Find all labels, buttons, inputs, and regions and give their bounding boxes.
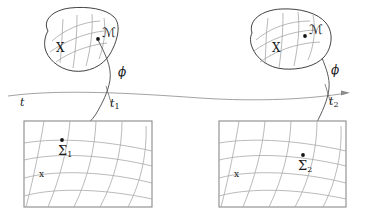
panel-left-group [24, 121, 152, 207]
panel-right-frame [219, 121, 346, 207]
panel-right-point-dot [301, 153, 305, 157]
manifold-left-label: ℳ [102, 26, 116, 39]
time-axis-arrowhead [341, 91, 350, 96]
phi-label-left: ϕ [118, 66, 126, 78]
manifold-right-label: ℳ [309, 23, 323, 36]
time-axis-label: t [20, 97, 24, 108]
panel-left-frame [24, 121, 152, 207]
time-tick-2-sub: 2 [333, 100, 338, 109]
time-tick-label-1: t1 [110, 98, 120, 111]
panel-left-point-dot [60, 138, 64, 142]
panel-left-space-label: x [39, 170, 44, 179]
manifold-right-grid-u2 [254, 30, 315, 51]
panel-right-point-sub: 2 [307, 165, 312, 174]
time-axis-line [8, 92, 347, 100]
panel-right-space-label: x [234, 170, 239, 179]
manifold-left-grid-v2 [73, 15, 77, 68]
panel-right-point-base: Ʃ [298, 158, 307, 173]
manifold-right-grid-v3 [294, 12, 299, 66]
manifold-right-point-dot [303, 34, 307, 38]
phi-label-right: ϕ [331, 64, 339, 76]
panel-right-point-label: Ʃ2 [298, 159, 312, 174]
manifold-left-space-label: X [56, 42, 65, 54]
manifold-right-group [251, 9, 332, 69]
panel-left-point-base: Ʃ [58, 143, 67, 158]
time-tick-1-sub: 1 [114, 102, 119, 111]
time-tick-label-2: t2 [329, 96, 339, 109]
panel-left-point-label: Ʃ1 [58, 144, 72, 159]
panel-left-point-sub: 1 [67, 150, 72, 159]
panel-right-group [219, 121, 346, 207]
time-axis-group [8, 84, 350, 106]
manifold-right-space-label: X [272, 42, 281, 54]
diagram-canvas: ℳ X ϕ ℳ X ϕ t t1 t2 Ʃ1 x Ʃ2 x [0, 0, 367, 222]
